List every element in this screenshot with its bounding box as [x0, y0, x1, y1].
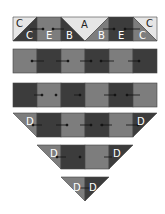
square	[13, 83, 37, 107]
label-e-right: E	[118, 30, 124, 41]
label-d-right: D	[113, 148, 121, 159]
label-d-right: D	[89, 182, 97, 193]
row-2	[13, 49, 157, 73]
label-c-right-bottom: C	[139, 30, 146, 41]
label-a: A	[81, 19, 88, 30]
row-4: D D	[13, 113, 157, 137]
square	[61, 83, 85, 107]
label-b-right: B	[98, 30, 105, 41]
label-d-left: D	[50, 148, 58, 159]
row-6: D D	[61, 177, 109, 201]
label-d-left: D	[26, 116, 34, 127]
label-c-left-top: C	[16, 18, 23, 29]
label-d-left: D	[73, 182, 81, 193]
quilt-assembly-diagram: C C E B A B E C C	[0, 0, 165, 214]
label-c-left-bottom: C	[26, 30, 33, 41]
row-3	[13, 83, 157, 107]
row-5: D D	[37, 145, 133, 169]
label-c-right-top: C	[146, 18, 153, 29]
label-b-left: B	[66, 30, 73, 41]
label-e-left: E	[46, 30, 52, 41]
label-d-right: D	[137, 116, 145, 127]
row-1: C C E B A B E C C	[13, 17, 157, 41]
